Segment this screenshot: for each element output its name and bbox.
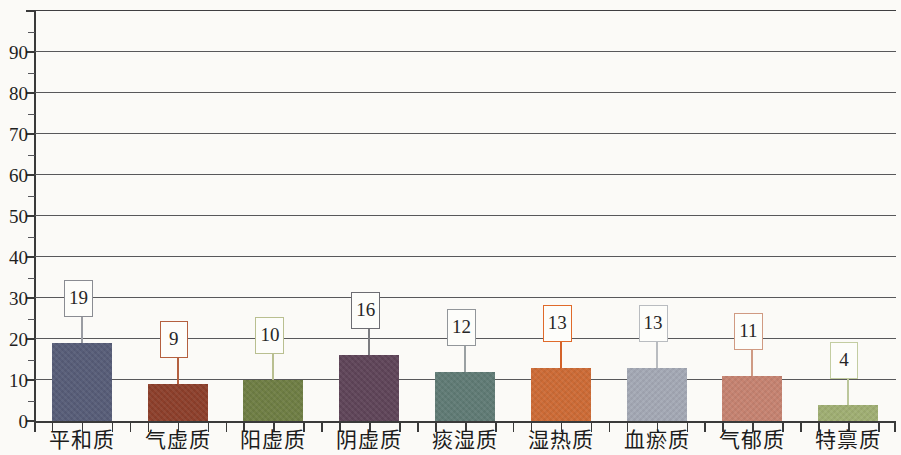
y-axis-label-50: 50 <box>0 207 28 226</box>
bar-1 <box>52 343 112 421</box>
category-label-2: 气虚质 <box>130 428 226 452</box>
data-label-leader-7 <box>656 342 658 368</box>
bar-texture <box>531 368 591 421</box>
bar-texture <box>722 376 782 421</box>
gridline-60 <box>34 174 896 175</box>
bar-texture <box>339 355 399 421</box>
bar-3 <box>243 380 303 421</box>
data-label-1: 19 <box>64 280 93 317</box>
bar-texture <box>52 343 112 421</box>
category-label-1: 平和质 <box>34 428 130 452</box>
gridline-80 <box>34 92 896 93</box>
category-label-7: 血瘀质 <box>609 428 705 452</box>
bar-9 <box>818 405 878 421</box>
bar-8 <box>722 376 782 421</box>
gridline-40 <box>34 256 896 257</box>
plot-area: 0102030405060708090 1991016121313114 <box>34 11 896 423</box>
data-label-3: 10 <box>255 317 284 354</box>
bar-4 <box>339 355 399 421</box>
category-label-9: 特禀质 <box>800 428 896 452</box>
y-minor-tick-95 <box>28 32 35 33</box>
data-label-9: 4 <box>830 342 858 379</box>
y-axis-label-10: 10 <box>0 371 28 390</box>
data-label-4: 16 <box>351 292 380 329</box>
y-axis-label-0: 0 <box>0 412 28 431</box>
category-label-5: 痰湿质 <box>417 428 513 452</box>
y-axis-label-20: 20 <box>0 330 28 349</box>
category-label-4: 阴虚质 <box>321 428 417 452</box>
data-label-leader-9 <box>847 379 849 405</box>
y-minor-tick-35 <box>28 278 35 279</box>
y-minor-tick-55 <box>28 196 35 197</box>
bar-chart: 0102030405060708090 1991016121313114 平和质… <box>0 0 901 455</box>
gridline-70 <box>34 133 896 134</box>
category-label-6: 湿热质 <box>513 428 609 452</box>
data-label-5: 12 <box>447 309 476 346</box>
data-label-leader-1 <box>81 317 83 343</box>
bar-6 <box>531 368 591 421</box>
y-minor-tick-15 <box>28 360 35 361</box>
gridline-50 <box>34 215 896 216</box>
bar-texture <box>627 368 687 421</box>
data-label-6: 13 <box>543 305 572 342</box>
data-label-leader-4 <box>368 329 370 355</box>
data-label-2: 9 <box>160 321 188 358</box>
category-label-3: 阳虚质 <box>226 428 322 452</box>
y-minor-tick-65 <box>28 155 35 156</box>
data-label-leader-8 <box>751 350 753 376</box>
y-axis-label-70: 70 <box>0 125 28 144</box>
data-label-leader-3 <box>272 354 274 380</box>
y-axis-label-30: 30 <box>0 289 28 308</box>
y-axis-label-40: 40 <box>0 248 28 267</box>
bar-7 <box>627 368 687 421</box>
bar-texture <box>818 405 878 421</box>
bar-5 <box>435 372 495 421</box>
bar-2 <box>148 384 208 421</box>
y-minor-tick-75 <box>28 114 35 115</box>
y-tick-100 <box>26 10 35 12</box>
bar-texture <box>148 384 208 421</box>
y-minor-tick-25 <box>28 319 35 320</box>
y-axis-label-60: 60 <box>0 166 28 185</box>
data-label-7: 13 <box>639 305 668 342</box>
data-label-8: 11 <box>734 313 762 350</box>
bar-texture <box>435 372 495 421</box>
y-minor-tick-85 <box>28 73 35 74</box>
gridline-100 <box>34 10 896 11</box>
y-minor-tick-5 <box>28 401 35 402</box>
y-axis-label-80: 80 <box>0 84 28 103</box>
y-axis-label-90: 90 <box>0 43 28 62</box>
gridline-30 <box>34 297 896 298</box>
data-label-leader-5 <box>464 346 466 372</box>
gridline-90 <box>34 51 896 52</box>
category-label-8: 气郁质 <box>704 428 800 452</box>
y-minor-tick-45 <box>28 237 35 238</box>
data-label-leader-2 <box>177 358 179 384</box>
bar-texture <box>243 380 303 421</box>
data-label-leader-6 <box>560 342 562 368</box>
